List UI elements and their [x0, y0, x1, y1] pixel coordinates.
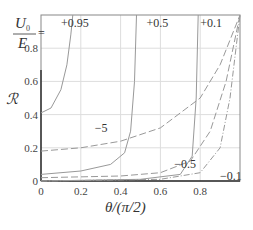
curve-labels: +0.95+0.5+0.1−5−0.5−0.1	[61, 16, 242, 183]
curve-label: −5	[95, 121, 108, 135]
curve-label: −0.5	[174, 157, 196, 171]
x-tick-label: 0.2	[74, 185, 88, 197]
y-tick-label: 0.6	[24, 75, 38, 87]
legend-subscript: 0	[26, 24, 30, 33]
x-tick-label: 0.6	[154, 185, 168, 197]
y-tick-labels: 00.20.40.60.8	[24, 42, 38, 187]
series-line-01	[41, 15, 240, 181]
series-line-05	[41, 15, 240, 178]
curve-label: −0.1	[220, 169, 242, 183]
x-axis-label: θ/(π/2)	[105, 199, 146, 216]
plot-frame	[41, 15, 240, 181]
legend-equals: =	[38, 26, 45, 40]
y-axis-label: ℛ	[6, 91, 19, 107]
curve-label: +0.95	[61, 16, 89, 30]
y-tick-label: 0	[33, 175, 39, 187]
series-line-01	[41, 15, 198, 181]
chart: 00.20.40.60.8 00.20.40.60.8 +0.95+0.5+0.…	[0, 0, 253, 230]
x-tick-labels: 00.20.40.60.8	[38, 185, 207, 197]
curve-label: +0.5	[146, 16, 168, 30]
grid-lines	[41, 15, 240, 181]
x-tick-label: 0.8	[193, 185, 207, 197]
y-tick-label: 0.2	[24, 142, 38, 154]
series-group	[41, 15, 240, 181]
y-tick-label: 0.4	[24, 109, 38, 121]
x-tick-label: 0	[38, 185, 44, 197]
x-tick-label: 0.4	[114, 185, 128, 197]
series-line-05	[41, 15, 137, 174]
curve-label: +0.1	[200, 16, 222, 30]
legend-denominator: E	[17, 35, 27, 51]
